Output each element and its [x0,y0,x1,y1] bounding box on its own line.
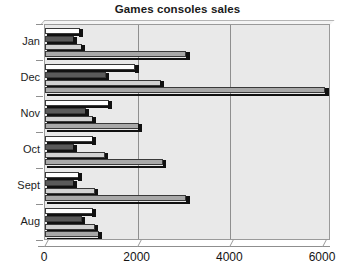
category-tick [36,60,43,61]
bar-nov-series-2[interactable] [45,108,86,114]
chart-container: Games consoles sales JanDecNovOctSeptAug… [0,0,355,273]
category-label-jan: Jan [22,36,40,47]
bar-end-cap [98,232,102,240]
bar-oct-series-3[interactable] [45,152,105,158]
bar-end-cap [135,65,139,73]
bar-shadow [47,130,141,132]
bar-sept-series-3[interactable] [45,188,95,194]
bar-shadow [47,202,188,204]
bar-jan-series-3[interactable] [45,44,82,50]
bar-sept-series-1[interactable] [45,172,79,178]
value-tick-label-4000: 4000 [216,250,243,264]
bar-end-cap [325,88,329,96]
category-tick [36,132,43,133]
category-label-sept: Sept [17,180,40,191]
bar-end-cap [186,52,190,60]
bar-oct-series-2[interactable] [45,144,74,150]
bar-oct-series-4[interactable] [45,159,163,165]
category-tick [36,168,43,169]
bar-dec-series-4[interactable] [45,87,325,93]
bar-end-cap [138,124,142,132]
category-tick [36,96,43,97]
category-tick [36,240,43,241]
bar-end-cap [92,137,96,145]
value-tick-label-6000: 6000 [309,250,336,264]
bar-jan-series-2[interactable] [45,36,74,42]
value-tick-label-0: 0 [41,250,48,264]
value-tick-label-2000: 2000 [123,250,150,264]
bar-nov-series-1[interactable] [45,100,109,106]
category-tick [36,204,43,205]
bar-aug-series-3[interactable] [45,224,95,230]
bar-end-cap [78,173,82,181]
bar-shadow [47,238,101,240]
bar-dec-series-2[interactable] [45,72,106,78]
bar-oct-series-1[interactable] [45,136,93,142]
bar-sept-series-2[interactable] [45,180,74,186]
bar-jan-series-4[interactable] [45,51,186,57]
category-label-dec: Dec [20,72,40,83]
bar-end-cap [108,101,112,109]
chart-title: Games consoles sales [0,3,355,15]
bar-aug-series-2[interactable] [45,216,82,222]
plot-area [44,24,330,240]
bar-sept-series-4[interactable] [45,195,186,201]
bar-nov-series-3[interactable] [45,116,93,122]
bar-end-cap [92,209,96,217]
bar-jan-series-1[interactable] [45,28,80,34]
value-axis-line [38,246,330,247]
bar-dec-series-1[interactable] [45,64,135,70]
bar-aug-series-1[interactable] [45,208,93,214]
bar-dec-series-3[interactable] [45,80,161,86]
bar-shadow [47,166,165,168]
category-label-aug: Aug [20,216,40,227]
bar-aug-series-4[interactable] [45,231,99,237]
category-label-oct: Oct [23,144,40,155]
category-tick [36,24,43,25]
bar-end-cap [186,196,190,204]
category-axis: JanDecNovOctSeptAug [0,24,40,240]
bar-end-cap [79,29,83,37]
bar-shadow [47,94,327,96]
bar-end-cap [163,160,167,168]
bar-shadow [47,58,188,60]
bar-nov-series-4[interactable] [45,123,139,129]
gridline-4000 [230,25,231,239]
category-label-nov: Nov [20,108,40,119]
